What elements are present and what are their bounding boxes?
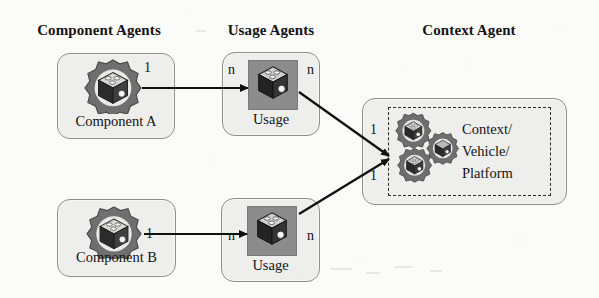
multiplicity-usage-a-out: n <box>307 62 314 78</box>
column-title-component-agents: Component Agents <box>14 22 184 39</box>
node-label-context-agent: Context/ Vehicle/ Platform <box>462 118 546 184</box>
node-label-usage-a: Usage <box>222 111 320 128</box>
context-label-line-3: Platform <box>462 162 546 184</box>
column-title-usage-agents: Usage Agents <box>208 22 334 39</box>
node-label-component-a: Component A <box>57 113 175 130</box>
context-label-line-2: Vehicle/ <box>462 140 546 162</box>
usage-cube-icon <box>252 63 294 105</box>
multiplicity-component-b-out: 1 <box>146 226 153 242</box>
column-title-context-agent: Context Agent <box>392 22 546 39</box>
component-cube-gear-icon <box>82 58 144 114</box>
diagram-canvas: Component Agents Usage Agents Context Ag… <box>0 0 599 298</box>
node-label-usage-b: Usage <box>221 257 320 274</box>
usage-cube-icon <box>251 209 293 251</box>
multiplicity-usage-b-in: n <box>228 228 235 244</box>
node-label-component-b: Component B <box>57 249 176 266</box>
multiplicity-context-in-bottom: 1 <box>370 168 377 184</box>
multiplicity-usage-a-in: n <box>228 62 235 78</box>
multiplicity-usage-b-out: n <box>307 228 314 244</box>
context-label-line-1: Context/ <box>462 118 546 140</box>
multiplicity-context-in-top: 1 <box>370 122 377 138</box>
multiplicity-component-a-out: 1 <box>144 60 151 76</box>
